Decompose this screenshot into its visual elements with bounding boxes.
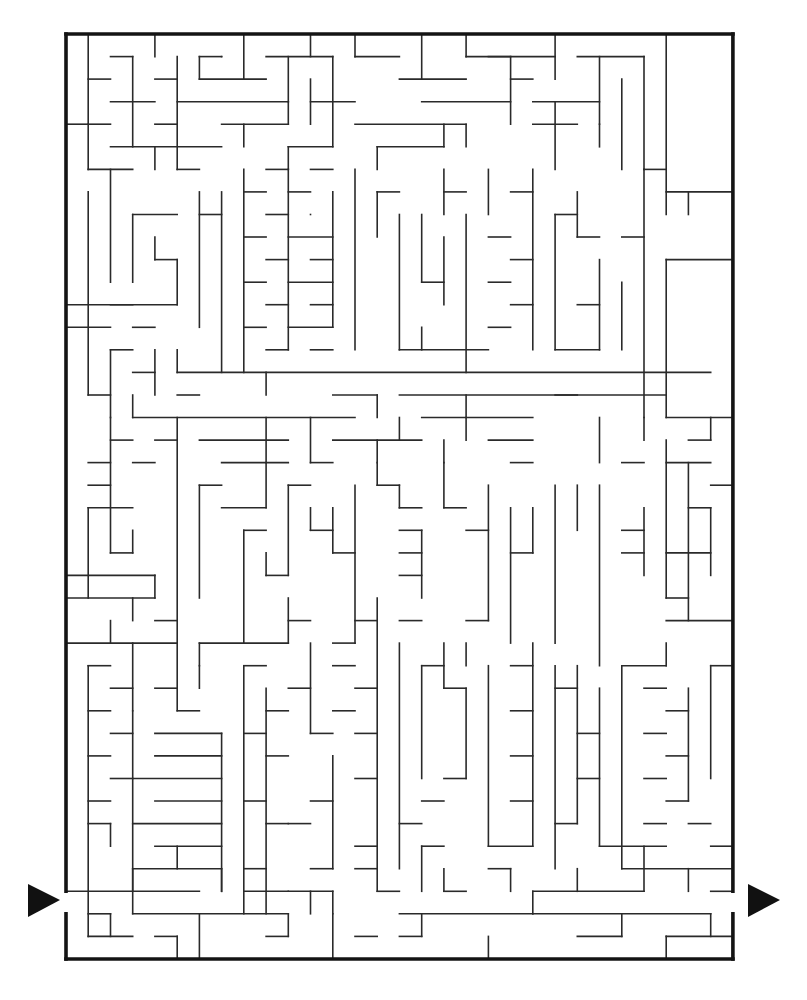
- maze-board: [0, 0, 807, 1000]
- finish-arrow-icon: [748, 884, 780, 917]
- maze-walls: [66, 34, 733, 959]
- maze-puzzle: Maze Start Finish: [0, 0, 807, 1000]
- start-arrow-icon: [28, 884, 60, 917]
